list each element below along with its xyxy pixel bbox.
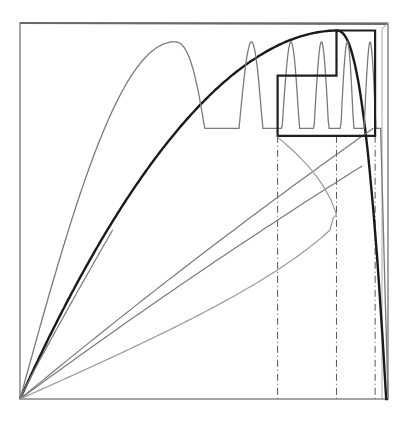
ray-2 [20, 166, 362, 399]
diagram-canvas [0, 0, 410, 422]
cobweb-plot [0, 0, 410, 422]
map-curves [20, 31, 388, 400]
frame-top-edge [20, 23, 388, 24]
thick-map-curve [20, 31, 388, 400]
dashed-projection-lines [278, 136, 376, 399]
steep-iterate-curve [20, 230, 113, 399]
ray-1 [20, 128, 373, 399]
